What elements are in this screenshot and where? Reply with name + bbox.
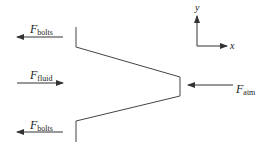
x-axis-label: x bbox=[230, 41, 234, 51]
y-axis-label: y bbox=[195, 3, 199, 13]
nozzle-outline bbox=[76, 27, 180, 142]
fluid-label: Ffluid bbox=[30, 66, 52, 82]
bolts-top-label: Fbolts bbox=[30, 20, 53, 36]
bolts-bottom-label: Fbolts bbox=[30, 116, 53, 132]
atm-label: Fatm bbox=[236, 80, 255, 96]
